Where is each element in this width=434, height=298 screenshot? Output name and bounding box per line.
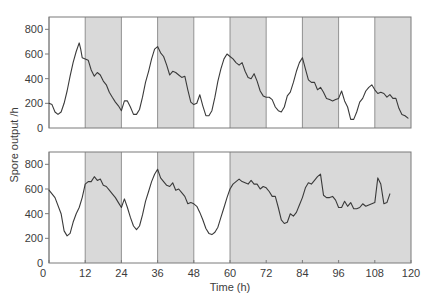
x-tick-label: 96: [332, 267, 344, 279]
y-tick-label: 0: [37, 122, 43, 134]
dark-period-band: [85, 152, 121, 263]
x-tick-label: 72: [260, 267, 272, 279]
top-panel: 0200400600800: [25, 17, 411, 134]
x-tick-label: 84: [296, 267, 308, 279]
y-tick-label: 800: [25, 158, 43, 170]
light-period-band: [266, 17, 302, 128]
bottom-panel: 020040060080001224364860728496108120: [25, 152, 421, 279]
dark-period-band: [302, 17, 338, 128]
dark-period-band: [230, 17, 266, 128]
y-tick-label: 600: [25, 48, 43, 60]
dark-period-band: [375, 17, 411, 128]
x-tick-label: 0: [40, 267, 46, 279]
x-tick-label: 48: [188, 267, 200, 279]
dark-period-band: [158, 152, 194, 263]
x-tick-label: 108: [366, 267, 384, 279]
dark-period-band: [85, 17, 121, 128]
y-tick-label: 600: [25, 183, 43, 195]
y-axis-title: Spore output /h: [8, 107, 20, 182]
y-tick-label: 800: [25, 23, 43, 35]
dark-period-band: [230, 152, 411, 263]
x-tick-label: 60: [224, 267, 236, 279]
x-tick-label: 36: [151, 267, 163, 279]
y-tick-label: 400: [25, 73, 43, 85]
light-period-band: [121, 17, 157, 128]
x-tick-label: 24: [115, 267, 127, 279]
figure: 0200400600800 02004006008000122436486072…: [0, 0, 434, 298]
x-tick-label: 120: [402, 267, 420, 279]
y-tick-label: 200: [25, 232, 43, 244]
y-tick-label: 200: [25, 97, 43, 109]
x-axis-title: Time (h): [210, 281, 251, 293]
y-tick-label: 400: [25, 208, 43, 220]
x-tick-label: 12: [79, 267, 91, 279]
